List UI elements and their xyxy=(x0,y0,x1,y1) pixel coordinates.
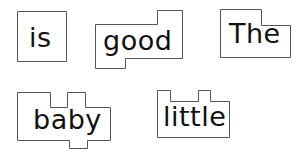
word-card-baby[interactable]: baby xyxy=(17,92,110,148)
word-card-good[interactable]: good xyxy=(95,10,182,68)
word-cards-canvas: is good The baby little xyxy=(0,0,307,159)
word-label: baby xyxy=(33,106,102,133)
word-card-little[interactable]: little xyxy=(157,90,229,137)
word-label: good xyxy=(103,27,172,54)
word-label: The xyxy=(229,20,281,47)
word-label: is xyxy=(29,24,52,51)
word-card-the[interactable]: The xyxy=(220,9,290,57)
word-card-is[interactable]: is xyxy=(17,11,66,61)
word-label: little xyxy=(163,103,226,130)
